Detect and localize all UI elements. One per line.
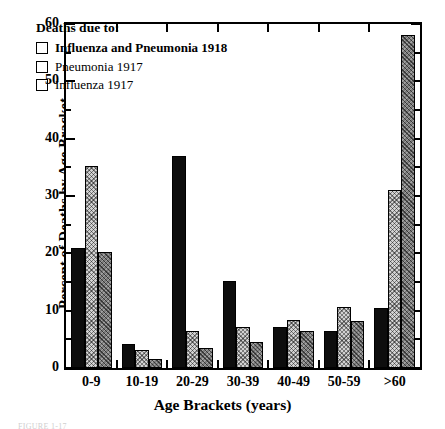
bar	[287, 320, 301, 368]
bar	[71, 248, 85, 368]
y-tick-minor-right	[415, 281, 420, 283]
y-tick-label: 20	[45, 244, 59, 260]
bar	[401, 35, 415, 368]
x-tick-label: 30-39	[227, 374, 260, 390]
bar	[98, 252, 112, 368]
bar	[172, 156, 186, 368]
figure-caption: FIGURE 1-17	[18, 422, 67, 429]
y-tick-minor-right	[415, 166, 420, 168]
bar	[122, 344, 136, 368]
x-tick-top	[267, 24, 269, 32]
chart-container: Percent of Deaths by Age Bracket 0102030…	[0, 0, 445, 429]
y-tick-label: 10	[45, 302, 59, 318]
bar	[351, 321, 365, 368]
bar	[300, 331, 314, 368]
x-tick-label: 20-29	[176, 374, 209, 390]
bar	[149, 359, 163, 368]
legend-item-influenza-1917: Influenza 1917	[36, 77, 251, 93]
legend-label: Influenza 1917	[55, 77, 133, 93]
y-tick-label: 40	[45, 130, 59, 146]
x-tick-label: 40-49	[277, 374, 310, 390]
y-tick-minor-right	[415, 52, 420, 54]
x-tick-label: 50-59	[328, 374, 361, 390]
x-tick	[267, 360, 269, 368]
legend-title: Deaths due to:	[36, 20, 251, 36]
bar	[135, 350, 149, 368]
x-axis-tick-labels: 0-910-1920-2930-3940-4950-59>60	[64, 374, 422, 396]
legend-label: Pneumonia 1917	[55, 59, 143, 75]
bar	[223, 281, 237, 368]
x-axis-title: Age Brackets (years)	[0, 396, 445, 414]
bar	[324, 331, 338, 368]
bar-group-5059	[324, 24, 365, 368]
x-tick-label: 10-19	[126, 374, 159, 390]
bar	[85, 166, 99, 368]
legend-swatch-dark-hatch-icon	[36, 79, 48, 91]
bar	[273, 327, 287, 368]
bar-group-60	[374, 24, 415, 368]
bar	[388, 190, 402, 368]
chart-legend: Deaths due to: Influenza and Pneumonia 1…	[36, 20, 251, 96]
x-tick-label: 0-9	[82, 374, 101, 390]
bar	[374, 308, 388, 368]
x-tick-top	[318, 24, 320, 32]
legend-item-pneumonia-1917: Pneumonia 1917	[36, 59, 251, 75]
y-tick-minor-right	[415, 109, 420, 111]
legend-item-influenza-and-pneumonia-1918: Influenza and Pneumonia 1918	[36, 40, 251, 56]
y-tick-label: 30	[45, 187, 59, 203]
x-tick-label: >60	[384, 374, 406, 390]
legend-label: Influenza and Pneumonia 1918	[55, 40, 227, 56]
y-tick-minor-right	[415, 224, 420, 226]
bar	[199, 348, 213, 368]
x-tick	[318, 360, 320, 368]
y-tick-label: 0	[52, 359, 59, 375]
bar	[250, 342, 264, 368]
x-tick	[368, 360, 370, 368]
x-tick	[166, 360, 168, 368]
x-tick	[116, 360, 118, 368]
legend-swatch-light-hatch-icon	[36, 61, 48, 73]
bar	[236, 327, 250, 368]
bar	[186, 331, 200, 368]
x-tick	[217, 360, 219, 368]
bar	[337, 307, 351, 368]
x-tick-top	[368, 24, 370, 32]
bar-group-4049	[273, 24, 314, 368]
y-tick-minor-right	[415, 338, 420, 340]
legend-swatch-solid-black-icon	[36, 42, 48, 54]
